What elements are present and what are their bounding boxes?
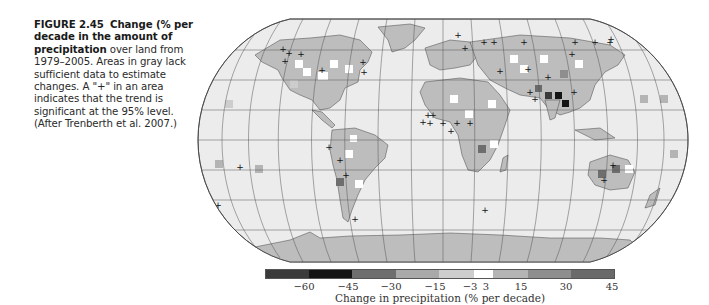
tick-label: −15 (424, 281, 445, 292)
svg-text:+: + (359, 57, 367, 67)
colorbar-axis-label: Change in precipitation (% per decade) (265, 292, 615, 304)
colorbar-bin-neg45-neg30 (352, 270, 395, 278)
tick-label: 30 (560, 281, 573, 292)
svg-text:+: + (531, 94, 539, 104)
svg-text:+: + (342, 170, 350, 180)
svg-text:+: + (466, 118, 474, 128)
tick-label: −60 (293, 281, 314, 292)
svg-text:+: + (439, 118, 447, 128)
svg-text:+: + (524, 64, 532, 74)
svg-text:+: + (318, 65, 326, 75)
svg-text:+: + (336, 155, 344, 165)
tick-label: −30 (380, 281, 401, 292)
tick-label: −45 (337, 281, 358, 292)
svg-text:+: + (570, 87, 578, 97)
tick-label: 15 (515, 281, 528, 292)
colorbar-bin-3-15 (493, 270, 528, 278)
svg-text:+: + (447, 126, 455, 136)
colorbar-bin-neg15-neg3 (439, 270, 474, 278)
svg-text:+: + (609, 160, 617, 170)
tick-label: 45 (606, 281, 619, 292)
tick-label: −3 (463, 281, 478, 292)
svg-text:+: + (360, 67, 368, 77)
svg-text:+: + (496, 66, 504, 76)
colorbar-bin-neg75-neg60 (266, 270, 309, 278)
svg-text:+: + (454, 30, 462, 40)
svg-text:+: + (236, 162, 244, 172)
svg-text:+: + (461, 43, 469, 53)
svg-text:+: + (568, 49, 576, 59)
svg-text:+: + (481, 205, 489, 215)
colorbar-bin-30-45 (571, 270, 614, 278)
svg-text:+: + (591, 37, 599, 47)
colorbar-bin-neg60-neg45 (309, 270, 352, 278)
svg-text:+: + (351, 214, 359, 224)
svg-text:+: + (607, 34, 615, 44)
svg-text:+: + (520, 37, 528, 47)
colorbar-bin-neg3-3 (474, 270, 493, 278)
svg-text:+: + (426, 118, 434, 128)
tick-label: 3 (483, 281, 489, 292)
svg-text:+: + (490, 37, 498, 47)
svg-text:+: + (571, 37, 579, 47)
colorbar-bin-15-30 (528, 270, 571, 278)
svg-text:+: + (325, 142, 333, 152)
svg-text:+: + (600, 175, 608, 185)
colorbar (265, 269, 615, 279)
svg-text:+: + (480, 37, 488, 47)
colorbar-bin-neg30-neg15 (396, 270, 439, 278)
svg-text:+: + (281, 56, 289, 66)
svg-text:+: + (544, 72, 552, 82)
svg-text:+: + (297, 49, 305, 59)
world-precipitation-map: + + + + + + + + + + + + + + + + + + + + … (0, 0, 709, 305)
